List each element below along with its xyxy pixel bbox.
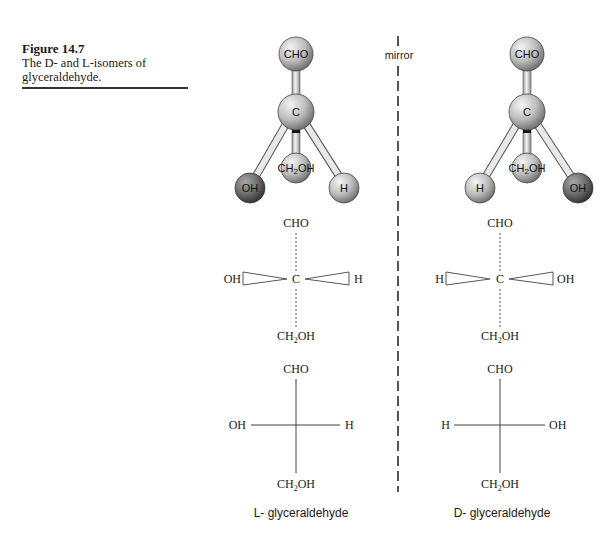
d-h-atom-label: H — [476, 182, 484, 194]
d-wedge-top: CHO — [487, 216, 513, 230]
d-wedge-projection: CHO C H OH CH2OH — [435, 216, 574, 345]
mirror-plane: mirror — [378, 36, 420, 492]
d-carbon-atom-label: C — [523, 106, 531, 118]
l-fischer-bottom: CH2OH — [277, 477, 315, 493]
d-wedge-right: OH — [557, 272, 575, 286]
d-fischer-left: H — [441, 418, 450, 432]
l-fischer-projection: CHO OH H CH2OH — [229, 362, 354, 493]
l-wedge-right: H — [354, 272, 363, 286]
l-isomer-name: L- glyceraldehyde — [254, 506, 349, 520]
l-wedge-left-shape — [243, 272, 287, 285]
d-wedge-left-shape — [446, 272, 490, 285]
l-carbon-atom-label: C — [292, 106, 300, 118]
l-wedge-right-shape — [305, 272, 349, 285]
d-fischer-right: OH — [549, 418, 567, 432]
l-oh-atom-label: OH — [242, 182, 259, 194]
l-wedge-center: C — [292, 272, 300, 286]
d-oh-atom-label: OH — [570, 182, 587, 194]
d-ball-stick-model: CH2OH CHO C H OH — [465, 37, 593, 203]
d-wedge-left: H — [435, 272, 444, 286]
d-wedge-bottom: CH2OH — [481, 329, 519, 345]
d-fischer-top: CHO — [487, 362, 513, 376]
l-cho-atom-label: CHO — [284, 48, 309, 60]
l-fischer-top: CHO — [283, 362, 309, 376]
l-h-atom-label: H — [340, 182, 348, 194]
d-fischer-bottom: CH2OH — [481, 477, 519, 493]
d-wedge-center: C — [496, 272, 504, 286]
l-wedge-bottom: CH2OH — [277, 329, 315, 345]
l-wedge-projection: CHO C OH H CH2OH — [224, 216, 363, 345]
mirror-label: mirror — [385, 49, 414, 61]
l-fischer-left: OH — [229, 418, 247, 432]
l-wedge-left: OH — [224, 272, 242, 286]
l-wedge-top: CHO — [283, 216, 309, 230]
d-fischer-projection: CHO H OH CH2OH — [441, 362, 566, 493]
glyceraldehyde-diagram: mirror CH2OH CHO C OH H CH2OH CHO — [0, 0, 613, 540]
d-isomer-name: D- glyceraldehyde — [454, 506, 551, 520]
l-ball-stick-model: CH2OH CHO C OH H — [235, 37, 359, 203]
d-wedge-right-shape — [509, 272, 553, 285]
d-cho-atom-label: CHO — [515, 48, 540, 60]
l-fischer-right: H — [345, 418, 354, 432]
